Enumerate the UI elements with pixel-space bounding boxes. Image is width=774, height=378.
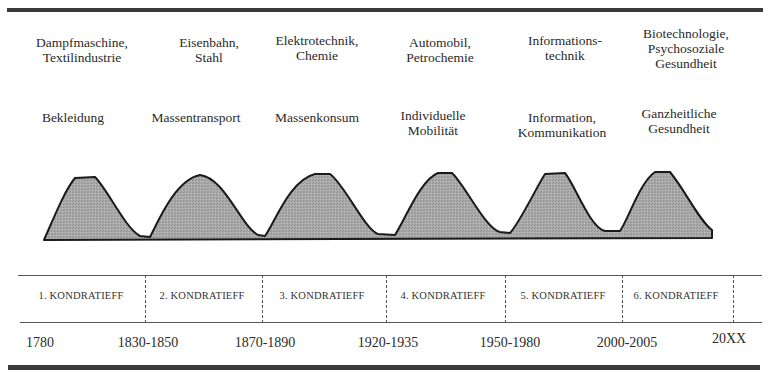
band-divider-5	[622, 275, 623, 323]
year-label-5: 1950-1980	[480, 335, 541, 351]
band-divider-6	[733, 275, 734, 323]
cycle-label-3: 3. KONDRATIEFF	[279, 290, 364, 301]
year-label-2: 1830-1850	[118, 335, 179, 351]
year-label-6: 2000-2005	[597, 335, 658, 351]
year-label-end: 20XX	[712, 331, 746, 347]
cycle-label-1: 1. KONDRATIEFF	[38, 290, 123, 301]
bottom-rule	[8, 365, 760, 370]
band-divider-3	[386, 275, 387, 323]
cycle-label-6: 6. KONDRATIEFF	[633, 290, 718, 301]
band-divider-4	[505, 275, 506, 323]
cycle-label-5: 5. KONDRATIEFF	[520, 290, 605, 301]
band-divider-1	[145, 275, 146, 323]
year-label-3: 1870-1890	[235, 335, 296, 351]
year-label-1: 1780	[26, 335, 54, 351]
cycle-label-4: 4. KONDRATIEFF	[400, 290, 485, 301]
cycle-label-2: 2. KONDRATIEFF	[159, 290, 244, 301]
band-top-line	[18, 275, 762, 276]
wave-curve	[44, 172, 712, 240]
band-bottom-line	[20, 322, 762, 323]
band-divider-2	[262, 275, 263, 323]
year-label-4: 1920-1935	[358, 335, 419, 351]
